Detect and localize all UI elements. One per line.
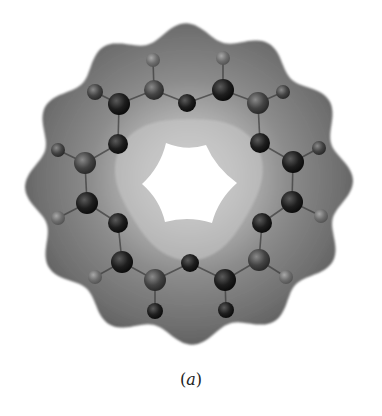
- atom-sphere: [279, 270, 293, 284]
- figure-caption: (a): [0, 370, 382, 389]
- atom-sphere: [281, 191, 303, 213]
- atom-sphere: [146, 53, 160, 67]
- atom-sphere: [108, 134, 128, 154]
- atom-sphere: [248, 249, 270, 271]
- atom-sphere: [218, 302, 234, 318]
- atom-sphere: [51, 211, 65, 225]
- atom-sphere: [76, 192, 98, 214]
- atom-sphere: [216, 51, 230, 65]
- atom-sphere: [252, 213, 272, 233]
- atom-sphere: [108, 93, 130, 115]
- caption-close-paren: ): [196, 370, 202, 389]
- atom-sphere: [247, 92, 269, 114]
- atom-sphere: [108, 213, 128, 233]
- atom-sphere: [214, 269, 236, 291]
- atom-sphere: [51, 143, 65, 157]
- atom-sphere: [250, 133, 270, 153]
- atom-sphere: [312, 141, 326, 155]
- atom-sphere: [276, 85, 290, 99]
- atom-sphere: [314, 209, 328, 223]
- atom-sphere: [181, 254, 199, 272]
- atom-sphere: [87, 84, 103, 100]
- molecule-figure: [0, 0, 382, 360]
- atom-sphere: [212, 79, 234, 101]
- atom-sphere: [88, 270, 102, 284]
- atom-sphere: [111, 251, 133, 273]
- atom-sphere: [178, 94, 196, 112]
- atom-sphere: [147, 303, 163, 319]
- atom-sphere: [74, 152, 96, 174]
- atom-sphere: [144, 80, 164, 100]
- atom-sphere: [144, 269, 166, 291]
- caption-letter: a: [186, 370, 196, 389]
- atom-sphere: [282, 151, 304, 173]
